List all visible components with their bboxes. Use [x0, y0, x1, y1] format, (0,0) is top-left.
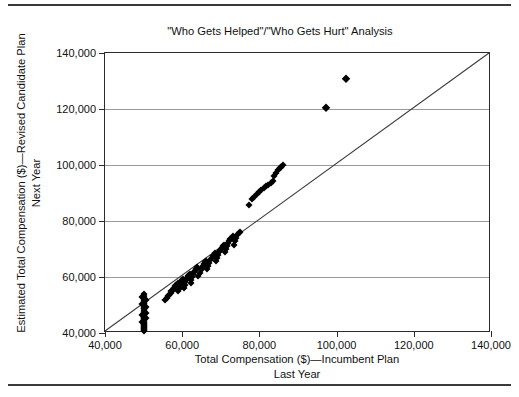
- x-axis-tick-label: 40,000: [88, 339, 122, 351]
- x-axis-tick: [337, 331, 338, 337]
- top-divider-rule: [8, 4, 511, 6]
- y-axis-tick-label: 100,000: [56, 159, 96, 171]
- y-axis-title: Estimated Total Compensation ($)—Revised…: [14, 33, 44, 333]
- bottom-divider-rule: [8, 384, 511, 386]
- y-axis-tick-label: 40,000: [62, 327, 96, 339]
- x-axis-title: Total Compensation ($)—Incumbent Plan La…: [104, 352, 490, 382]
- x-axis-tick: [182, 331, 183, 337]
- chart-title-line-1: "Who Gets Helped"/"Who Gets Hurt" Analys…: [60, 24, 500, 38]
- y-axis-tick-label: 120,000: [56, 103, 96, 115]
- x-axis-tick: [259, 331, 260, 337]
- x-axis-tick-label: 120,000: [394, 339, 434, 351]
- y-axis-tick-label: 140,000: [56, 47, 96, 59]
- x-axis-tick: [414, 331, 415, 337]
- y-axis-tick-label: 80,000: [62, 215, 96, 227]
- y-axis-tick-label: 60,000: [62, 271, 96, 283]
- scatter-markers: [105, 53, 489, 331]
- x-axis-title-line-1: Total Compensation ($)—Incumbent Plan: [104, 352, 490, 367]
- x-axis-tick: [105, 331, 106, 337]
- x-axis-tick-label: 100,000: [317, 339, 357, 351]
- y-axis-title-line-2: Next Year: [29, 33, 44, 333]
- x-axis-tick-label: 80,000: [243, 339, 277, 351]
- x-axis-title-line-2: Last Year: [104, 367, 490, 382]
- x-axis-tick-label: 60,000: [165, 339, 199, 351]
- x-axis-tick: [491, 331, 492, 337]
- scatter-point: [322, 103, 331, 112]
- scatter-point: [341, 75, 350, 84]
- plot-area: 40,00060,00080,000100,000120,000140,000 …: [104, 52, 490, 332]
- chart-page: "Who Gets Helped"/"Who Gets Hurt" Analys…: [0, 0, 519, 397]
- x-axis-tick-label: 140,000: [471, 339, 511, 351]
- y-axis-title-line-1: Estimated Total Compensation ($)—Revised…: [14, 33, 29, 333]
